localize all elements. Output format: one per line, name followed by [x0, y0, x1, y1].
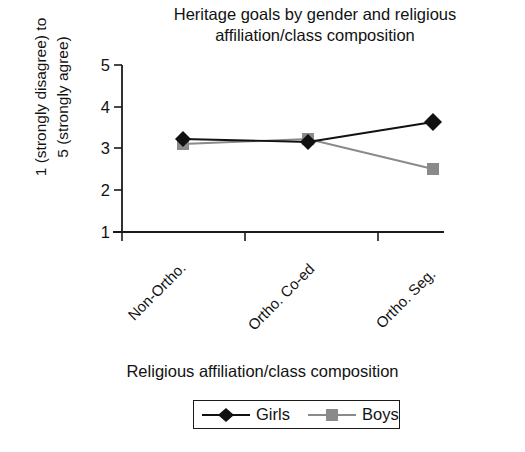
data-point-boys-3 — [427, 163, 439, 175]
y-tick-label-1: 1 — [88, 224, 110, 241]
legend-entry-girls: Girls — [200, 401, 290, 428]
legend-label-boys: Boys — [362, 405, 399, 424]
legend-entry-boys: Boys — [306, 401, 399, 428]
y-tick-label-3: 3 — [88, 140, 110, 157]
chart-legend: Girls Boys — [193, 400, 400, 429]
y-tick-label-5: 5 — [88, 57, 110, 74]
y-tick-label-2: 2 — [88, 182, 110, 199]
legend-marker-boys-icon — [306, 407, 358, 423]
x-axis-title: Religious affiliation/class composition — [0, 362, 525, 381]
legend-marker-girls-icon — [200, 407, 252, 423]
y-tick-label-4: 4 — [88, 99, 110, 116]
legend-label-girls: Girls — [256, 405, 290, 424]
chart-figure: Heritage goals by gender and religious a… — [0, 0, 525, 452]
plot-svg — [0, 0, 525, 452]
plot-area: 5 4 3 2 1 Non-Ortho. Ortho. Co-ed Ortho.… — [0, 0, 525, 452]
data-point-girls-3 — [424, 113, 442, 131]
